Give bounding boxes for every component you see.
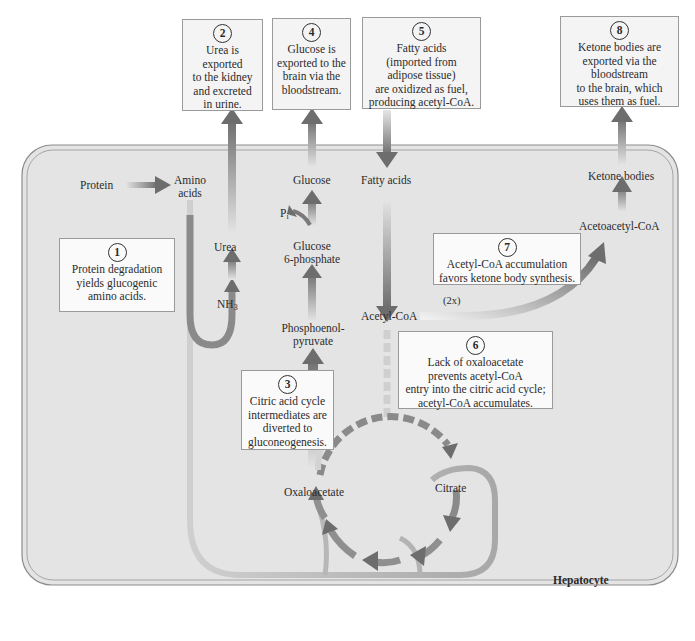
step-number-7: 7 — [498, 238, 517, 257]
label-citrate: Citrate — [435, 482, 466, 495]
hepatocyte-diagram: Protein Amino acids Urea NH3 Glucose Pi … — [0, 0, 695, 641]
label-acetoacetyl-coa: Acetoacetyl-CoA — [579, 220, 659, 233]
callout-8-text: Ketone bodies are exported via the blood… — [561, 41, 678, 109]
label-nh3: NH3 — [217, 298, 238, 311]
label-amino-acids-line1: Amino — [174, 174, 206, 186]
callout-7-ketone-synthesis: 7 Acetyl-CoA accumulation favors ketone … — [433, 233, 581, 285]
step-number-8: 8 — [610, 21, 629, 40]
label-amino-acids-line2: acids — [178, 187, 202, 199]
callout-2-text: Urea is exported to the kidney and excre… — [183, 44, 262, 112]
pep-line2: pyruvate — [293, 335, 333, 347]
nh3-subscript: 3 — [234, 303, 238, 312]
pep-line1: Phosphoenol- — [281, 322, 344, 334]
step-number-2: 2 — [213, 24, 232, 43]
callout-8-ketone-export: 8 Ketone bodies are exported via the blo… — [560, 16, 679, 107]
pi-subscript: i — [286, 212, 288, 221]
label-fatty-acids: Fatty acids — [361, 174, 411, 187]
g6p-line1: Glucose — [293, 240, 331, 252]
callout-5-fatty-acid-oxidation: 5 Fatty acids (imported from adipose tis… — [362, 17, 481, 109]
callout-2-urea-export: 2 Urea is exported to the kidney and exc… — [182, 19, 263, 111]
callout-4-glucose-export: 4 Glucose is exported to the brain via t… — [272, 18, 351, 110]
callout-5-text: Fatty acids (imported from adipose tissu… — [363, 42, 480, 110]
step-number-6: 6 — [466, 336, 485, 355]
label-glucose-6-phosphate: Glucose 6-phosphate — [281, 240, 343, 266]
step-number-3: 3 — [278, 375, 297, 394]
hepatocyte-cell — [22, 145, 678, 585]
label-ketone-bodies: Ketone bodies — [588, 170, 654, 183]
callout-6-oxaloacetate-lack: 6 Lack of oxaloacetate prevents acetyl-C… — [398, 331, 553, 409]
label-hepatocyte: Hepatocyte — [553, 574, 609, 587]
g6p-line2: 6-phosphate — [284, 253, 340, 265]
nh3-main: NH — [217, 298, 234, 310]
step-number-4: 4 — [302, 23, 321, 42]
step-number-1: 1 — [108, 243, 127, 262]
callout-1-text: Protein degradation yields glucogenic am… — [60, 263, 174, 304]
label-pi: Pi — [280, 207, 289, 220]
label-protein: Protein — [80, 179, 113, 192]
label-two-x: (2x) — [443, 294, 461, 307]
label-glucose: Glucose — [293, 174, 331, 187]
callout-3-citric-acid-intermediates: 3 Citric acid cycle intermediates are di… — [241, 370, 334, 450]
label-urea: Urea — [214, 241, 236, 254]
callout-1-protein-degradation: 1 Protein degradation yields glucogenic … — [59, 238, 175, 312]
step-number-5: 5 — [412, 22, 431, 41]
label-acetyl-coa: Acetyl-CoA — [361, 310, 417, 323]
label-oxaloacetate: Oxaloacetate — [284, 486, 344, 499]
label-amino-acids: Amino acids — [172, 174, 208, 200]
callout-4-text: Glucose is exported to the brain via the… — [273, 43, 350, 97]
callout-3-text: Citric acid cycle intermediates are dive… — [242, 395, 333, 449]
callout-7-text: Acetyl-CoA accumulation favors ketone bo… — [434, 258, 580, 285]
callout-6-text: Lack of oxaloacetate prevents acetyl-CoA… — [399, 356, 552, 410]
label-phosphoenolpyruvate: Phosphoenol- pyruvate — [281, 322, 345, 348]
